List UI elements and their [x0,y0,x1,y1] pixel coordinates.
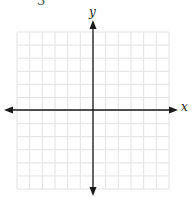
x-axis-left-arrow-icon [4,107,13,114]
coordinate-plane: 3 y x [0,0,193,198]
x-axis-label: x [181,101,188,113]
grid-and-axes [0,0,193,198]
cropped-fraction-digit: 3 [37,0,45,7]
x-axis-right-arrow-icon [169,107,178,114]
y-axis-bottom-arrow-icon [90,187,97,196]
y-axis-label: y [89,6,96,18]
y-axis-top-arrow-icon [90,20,97,29]
